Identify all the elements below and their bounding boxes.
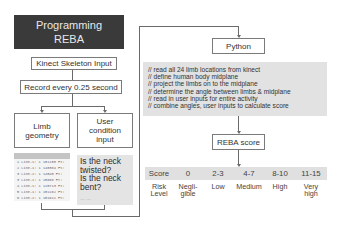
record-label: Record every 0.25 second [24, 83, 117, 92]
score-header: Score [145, 169, 173, 178]
connector-branch-horizontal [41, 106, 105, 107]
limb-geometry-box: Limb geometry [14, 113, 70, 148]
connector-bottom-horizontal [72, 216, 139, 217]
title-line2: REBA [54, 32, 84, 46]
user-label: User condition input [84, 117, 126, 144]
question-neck-twisted: Is the neck twisted? [80, 157, 130, 174]
limb-label: Limb geometry [19, 122, 65, 140]
connector-merge-down [72, 209, 73, 216]
risk-cell: Negli- gible [173, 183, 203, 197]
listing-line: 6 Line-1: 1 151611 Ft: [14, 195, 70, 201]
record-box: Record every 0.25 second [20, 80, 122, 94]
connector-loop-vertical [139, 26, 140, 217]
python-label: Python [226, 42, 251, 51]
comment-line: // define human body midplane [148, 73, 322, 80]
connector-merge-horizontal [41, 209, 105, 210]
comment-line: // read all 24 limb locations from kinec… [148, 66, 322, 73]
kinect-label: Kinect Skeleton Input [36, 59, 112, 68]
comment-line: // combine angles, user inputs to calcul… [148, 102, 322, 109]
score-cell: 8-10 [265, 169, 295, 178]
question-neck-bent: Is the neck bent? [80, 174, 130, 191]
risk-cell: Medium [233, 183, 265, 190]
risk-level-row: Risk Level Negli- gible Low Medium High … [145, 183, 327, 207]
reba-label: REBA score [217, 138, 260, 147]
connector-to-reba [238, 116, 239, 132]
title-box: Programming REBA [14, 15, 124, 49]
connector-to-table [238, 150, 239, 165]
score-cell: 2-3 [203, 169, 233, 178]
user-questions-panel: Is the neck twisted? Is the neck bent? …… [77, 155, 133, 205]
score-row: Score 0 2-3 4-7 8-10 11-15 [145, 167, 327, 180]
connector-kinect-record [72, 70, 73, 80]
connector-record-down [72, 94, 73, 106]
python-box: Python [212, 38, 265, 54]
score-cell: 11-15 [295, 169, 327, 178]
risk-cell: Low [203, 183, 233, 190]
comment-line: // read in user inputs for entire activi… [148, 95, 322, 102]
reba-score-box: REBA score [212, 134, 265, 150]
user-condition-box: User condition input [77, 113, 133, 148]
title-line1: Programming [36, 18, 102, 32]
risk-header: Risk Level [145, 183, 173, 197]
risk-cell: Very high [295, 183, 327, 197]
question-ellipsis: …… [80, 194, 130, 203]
connector-top-horizontal [139, 26, 239, 27]
score-cell: 0 [173, 169, 203, 178]
score-cell: 4-7 [233, 169, 265, 178]
python-comments-panel: // read all 24 limb locations from kinec… [143, 62, 327, 116]
risk-cell: High [265, 183, 295, 190]
comment-line: // determine the angle between limbs & m… [148, 88, 322, 95]
limb-data-listing: 1 Line-1: 1 151150 Ft: 2 Line-1: 1 14038… [14, 153, 70, 201]
comment-line: // project the limbs on to the midplane [148, 80, 322, 87]
kinect-input-box: Kinect Skeleton Input [31, 57, 117, 70]
